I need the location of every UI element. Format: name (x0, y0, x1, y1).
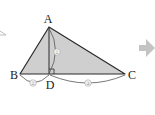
mark-ad-label: ① (55, 49, 60, 55)
vertex-d-label: D (46, 78, 55, 92)
triangle-abc (20, 27, 125, 74)
mark-dc-label: ③ (86, 80, 91, 86)
right-arrow-icon (139, 39, 155, 57)
partial-triangle-icon (0, 31, 6, 35)
vertex-b-label: B (10, 68, 18, 82)
vertex-c-label: C (128, 68, 136, 82)
triangle-diagram: ① ② ③ A B C D (0, 0, 155, 115)
vertex-a-label: A (44, 12, 53, 26)
mark-bd-label: ② (31, 80, 36, 86)
